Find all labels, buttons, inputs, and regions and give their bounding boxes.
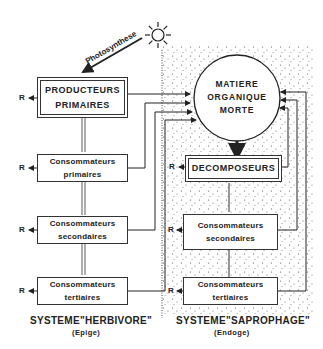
energy-flow-diagram: Photosynthese PRODUCTEURS PRIMAIRES Cons…: [0, 0, 323, 349]
box-consommateurs-primaires: Consommateurs primaires: [37, 154, 128, 182]
box-decomposeurs: DECOMPOSEURS: [185, 155, 282, 182]
saprophage-system-title: SYSTEME"SAPROPHAGE": [176, 315, 310, 326]
respiration-label: R: [168, 225, 174, 234]
herbivore-system-title: SYSTEME"HERBIVORE": [30, 315, 152, 326]
respiration-label: R: [19, 286, 25, 295]
box-consommateurs-tertiaires-herbivore: Consommateurs tertiaires: [37, 277, 128, 305]
respiration-label: R: [19, 93, 25, 102]
box-producteurs-primaires: PRODUCTEURS PRIMAIRES: [37, 77, 128, 118]
sun-icon: [145, 22, 171, 48]
respiration-label: R: [169, 162, 175, 171]
respiration-label: R: [19, 225, 25, 234]
saprophage-system-subtitle: (Endoge): [214, 328, 250, 337]
box-consommateurs-secondaires-herbivore: Consommateurs secondaires: [37, 216, 128, 244]
herbivore-system-subtitle: (Epige): [72, 328, 100, 337]
box-consommateurs-tertiaires-saprophage: Consommateurs tertiaires: [183, 277, 278, 305]
matiere-organique-morte: MATIERE ORGANIQUE MORTE: [199, 78, 275, 117]
respiration-label: R: [19, 163, 25, 172]
box-consommateurs-secondaires-saprophage: Consommateurs secondaires: [183, 214, 278, 250]
respiration-label: R: [168, 286, 174, 295]
